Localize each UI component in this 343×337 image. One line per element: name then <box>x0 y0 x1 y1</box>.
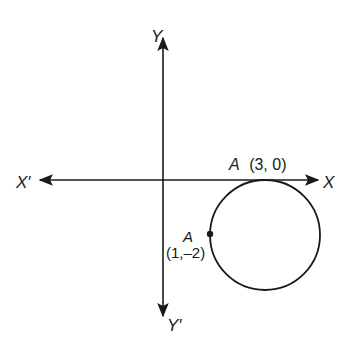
point-a-coords: (1,–2) <box>166 244 205 261</box>
point-a-name: A <box>182 228 193 245</box>
point-a-tangent-name: A <box>228 156 240 173</box>
point-a-tangent-coords: (3, 0) <box>249 156 286 173</box>
coordinate-diagram: Y X′ X Y′ A (3, 0) A (1,–2) <box>0 0 343 337</box>
point-a-tangent-label: A (3, 0) <box>228 156 286 173</box>
circle <box>210 180 320 290</box>
x-axis-label: X <box>322 173 335 192</box>
point-a-dot <box>207 231 213 237</box>
y-negative-label: Y′ <box>167 316 182 335</box>
x-negative-label: X′ <box>15 173 31 192</box>
y-axis-label: Y <box>151 27 164 46</box>
